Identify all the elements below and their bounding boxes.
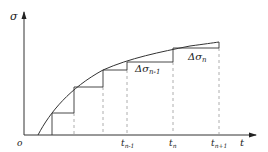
x-axis-label: t xyxy=(240,137,245,148)
tick-label-tn-1: tn-1 xyxy=(121,138,134,149)
increment-label-n-1: Δσn-1 xyxy=(134,63,160,76)
tick-label-tn+1: tn+1 xyxy=(211,138,227,149)
origin-label: o xyxy=(17,138,23,148)
increment-label-n: Δσn xyxy=(187,51,207,64)
tick-label-tn: tn xyxy=(169,138,177,149)
y-axis-label: σ xyxy=(10,10,18,23)
stress-time-diagram: σ t o tn-1 tn tn+1 Δσn-1 Δσn xyxy=(0,0,268,152)
